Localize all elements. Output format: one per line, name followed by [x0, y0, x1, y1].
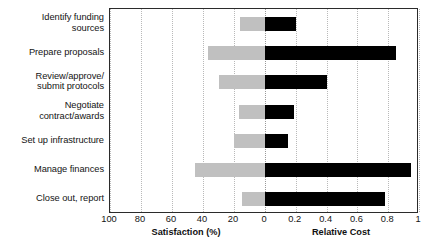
bar-relative-cost: [265, 105, 294, 119]
axis-tick-satisfaction: 80: [135, 214, 145, 224]
bar-relative-cost: [265, 192, 385, 206]
category-label: Negotiatecontract/awards: [0, 100, 104, 121]
bar-satisfaction: [242, 192, 265, 206]
category-label: Review/approve/submit protocols: [0, 71, 104, 92]
bar-satisfaction: [219, 75, 266, 89]
axis-tick-cost: 0.2: [288, 214, 301, 224]
category-label: Manage finances: [0, 164, 104, 174]
axis-tick-satisfaction: 100: [101, 214, 117, 224]
category-label-line: sources: [0, 23, 104, 33]
category-label-line: Negotiate: [0, 100, 104, 110]
category-label-line: Prepare proposals: [0, 47, 104, 57]
category-label: Set up infrastructure: [0, 135, 104, 145]
bar-row: [110, 46, 417, 60]
horizontal-diverging-bar-chart: Identify fundingsourcesPrepare proposals…: [0, 0, 428, 249]
bar-row: [110, 17, 417, 31]
category-label-line: Identify funding: [0, 12, 104, 22]
category-label-line: Review/approve/: [0, 71, 104, 81]
category-label-line: Close out, report: [0, 193, 104, 203]
bar-row: [110, 134, 417, 148]
bar-row: [110, 105, 417, 119]
category-label-column: Identify fundingsourcesPrepare proposals…: [0, 8, 104, 213]
axis-tick-satisfaction: 0: [261, 214, 266, 224]
axis-tick-satisfaction: 20: [228, 214, 238, 224]
bar-row: [110, 192, 417, 206]
category-label: Prepare proposals: [0, 47, 104, 57]
bar-relative-cost: [265, 17, 296, 31]
bar-satisfaction: [239, 105, 265, 119]
category-label: Close out, report: [0, 193, 104, 203]
category-label-line: Manage finances: [0, 164, 104, 174]
bar-satisfaction: [234, 134, 265, 148]
gridline-cost-1: [419, 9, 421, 212]
bar-row: [110, 75, 417, 89]
plot-area: [109, 8, 418, 213]
bottom-axis: 1008060402000.20.40.60.81 Satisfaction (…: [0, 214, 428, 249]
axis-tick-cost: 0.6: [350, 214, 363, 224]
axis-tick-cost: 0.4: [319, 214, 332, 224]
axis-tick-cost: 0.8: [381, 214, 394, 224]
bar-satisfaction: [208, 46, 265, 60]
right-axis-title: Relative Cost: [312, 227, 370, 237]
left-axis-title: Satisfaction (%): [152, 227, 221, 237]
bar-satisfaction: [240, 17, 265, 31]
category-label-line: Set up infrastructure: [0, 135, 104, 145]
bar-relative-cost: [265, 163, 411, 177]
category-label-line: contract/awards: [0, 111, 104, 121]
bar-relative-cost: [265, 134, 288, 148]
bar-relative-cost: [265, 46, 396, 60]
axis-tick-satisfaction: 60: [166, 214, 176, 224]
bar-row: [110, 163, 417, 177]
axis-tick-satisfaction: 40: [197, 214, 207, 224]
axis-tick-cost: 1: [415, 214, 420, 224]
category-label-line: submit protocols: [0, 81, 104, 91]
bar-relative-cost: [265, 75, 327, 89]
bar-satisfaction: [195, 163, 265, 177]
category-label: Identify fundingsources: [0, 12, 104, 33]
